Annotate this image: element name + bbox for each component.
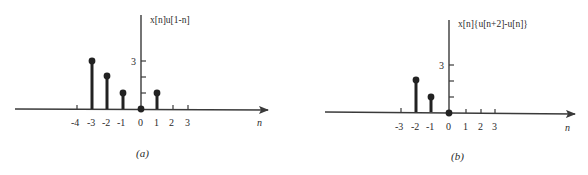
stem-point-n-2 xyxy=(104,73,111,80)
stem-point-n1 xyxy=(154,90,161,97)
stem-point-n-1 xyxy=(428,94,435,101)
x-axis-label-b: n xyxy=(565,122,570,133)
svg-text:1: 1 xyxy=(154,117,159,128)
stem-point-n-2 xyxy=(413,77,420,84)
x-axis-label-a: n xyxy=(257,117,262,128)
panel-b: 3 -3 -2 -1 0 1 2 3 x[n]{u[n+2]-u[n]} xyxy=(325,19,575,163)
x-tick-labels-a: -4 -3 -2 -1 0 1 2 3 xyxy=(71,117,190,128)
y-ticks-a xyxy=(141,61,146,93)
stems-a xyxy=(89,58,161,113)
y-tick-label-3-b: 3 xyxy=(439,60,444,71)
stem-point-n0 xyxy=(138,106,145,113)
svg-text:1: 1 xyxy=(463,121,468,132)
svg-text:0: 0 xyxy=(138,117,143,128)
x-ticks-a xyxy=(77,105,188,109)
svg-text:-2: -2 xyxy=(102,117,110,128)
panel-a: 3 -4 -3 -2 -1 0 1 2 3 xyxy=(15,15,268,160)
plot-title-b: x[n]{u[n+2]-u[n]} xyxy=(458,19,528,29)
svg-text:2: 2 xyxy=(169,117,174,128)
svg-text:0: 0 xyxy=(446,121,451,132)
svg-text:-3: -3 xyxy=(395,121,403,132)
y-ticks-b xyxy=(449,65,454,97)
svg-text:-1: -1 xyxy=(117,117,125,128)
svg-text:-1: -1 xyxy=(426,121,434,132)
stem-point-n-3 xyxy=(89,58,96,65)
caption-a: (a) xyxy=(136,147,149,160)
svg-text:-4: -4 xyxy=(71,117,79,128)
caption-b: (b) xyxy=(451,150,464,163)
stems-b xyxy=(413,77,453,117)
svg-text:3: 3 xyxy=(492,121,497,132)
figure: 3 -4 -3 -2 -1 0 1 2 3 xyxy=(0,0,588,175)
svg-text:-2: -2 xyxy=(411,121,419,132)
x-tick-labels-b: -3 -2 -1 0 1 2 3 xyxy=(395,121,497,132)
y-tick-label-3-a: 3 xyxy=(131,56,136,67)
plot-title-a: x[n]u[1-n] xyxy=(150,15,190,25)
stem-point-n0 xyxy=(446,110,453,117)
stem-point-n-1 xyxy=(120,90,127,97)
svg-text:2: 2 xyxy=(478,121,483,132)
svg-text:3: 3 xyxy=(185,117,190,128)
svg-text:-3: -3 xyxy=(87,117,95,128)
